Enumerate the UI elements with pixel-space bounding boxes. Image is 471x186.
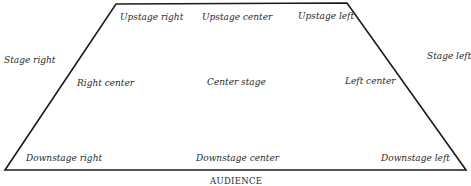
label-downstage-center: Downstage center [196, 154, 279, 163]
label-downstage-right: Downstage right [26, 154, 102, 163]
label-stage-right: Stage right [4, 56, 55, 65]
label-center-stage: Center stage [207, 78, 266, 87]
label-upstage-center: Upstage center [202, 13, 272, 22]
label-upstage-left: Upstage left [298, 12, 354, 21]
label-upstage-right: Upstage right [120, 13, 183, 22]
label-downstage-left: Downstage left [381, 154, 450, 163]
label-right-center: Right center [77, 79, 134, 88]
label-stage-left: Stage left [427, 52, 471, 61]
label-left-center: Left center [345, 77, 396, 86]
label-audience: AUDIENCE [210, 177, 262, 186]
